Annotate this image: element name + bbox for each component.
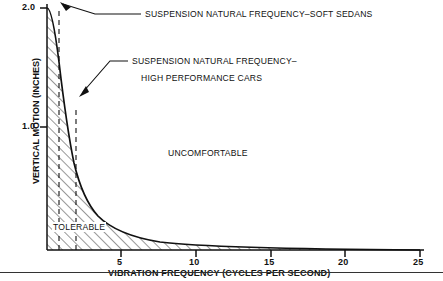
page-divider-rule [0, 272, 443, 273]
annotation-soft-sedans: SUSPENSION NATURAL FREQUENCY–SOFT SEDANS [145, 9, 373, 19]
tolerable-shaded-region [40, 0, 430, 260]
x-tick-label-5: 5 [117, 257, 122, 267]
region-label-tolerable: TOLERABLE [52, 222, 106, 232]
x-tick-label-10: 10 [189, 257, 199, 267]
chart-plot-area [0, 0, 443, 281]
annotation-high-performance-line2: HIGH PERFORMANCE CARS [141, 73, 262, 83]
x-tick-label-20: 20 [338, 257, 348, 267]
x-tick-label-25: 25 [413, 257, 423, 267]
vibration-comfort-chart: VERTICAL MOTION (INCHES) 2.0 1.0 5 10 15… [0, 0, 443, 281]
annotation-high-performance-line1: SUSPENSION NATURAL FREQUENCY– [132, 56, 297, 66]
callout-arrow-high-performance-cars [79, 61, 128, 97]
y-tick-label-1: 1.0 [22, 121, 35, 131]
x-tick-label-15: 15 [264, 257, 274, 267]
y-tick-label-2: 2.0 [22, 2, 35, 12]
x-axis-title: VIBRATION FREQUENCY (CYCLES PER SECOND) [108, 268, 331, 278]
callout-arrow-soft-sedans [60, 2, 141, 14]
comfort-threshold-curve [47, 8, 420, 250]
region-label-uncomfortable: UNCOMFORTABLE [168, 148, 248, 158]
